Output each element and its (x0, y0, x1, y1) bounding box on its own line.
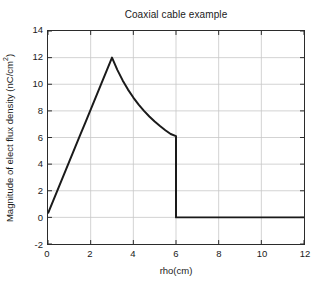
y-tick-label: 0 (20, 213, 43, 223)
y-tick-label: 2 (20, 186, 43, 196)
chart-figure: Coaxial cable example -202468101214 0246… (0, 0, 317, 289)
x-tick-label: 6 (173, 249, 178, 259)
y-tick-label: 10 (20, 79, 43, 89)
x-tick-label: 4 (130, 249, 135, 259)
x-tick-label: 0 (44, 249, 49, 259)
x-axis-title: rho(cm) (47, 265, 305, 276)
y-tick-label: 4 (20, 159, 43, 169)
y-tick-label: 12 (20, 52, 43, 62)
plot-canvas (48, 31, 304, 244)
y-tick-label: 6 (20, 133, 43, 143)
y-axis-title: Magnitude of elect flux density (nC/cm2) (4, 53, 15, 221)
x-tick-label: 8 (216, 249, 221, 259)
y-axis-title-superscript: 2 (2, 57, 9, 61)
y-tick-label: 8 (20, 106, 43, 116)
y-axis-title-tail: ) (4, 53, 15, 56)
y-tick-label: 14 (20, 25, 43, 35)
y-axis-tick-labels: -202468101214 (20, 30, 43, 245)
x-axis-tick-labels: 024681012 (47, 249, 305, 263)
y-axis-title-wrapper: Magnitude of elect flux density (nC/cm2) (0, 30, 18, 245)
x-tick-label: 10 (257, 249, 268, 259)
page-title: Coaxial cable example (47, 9, 305, 20)
plot-area (47, 30, 305, 245)
x-tick-label: 12 (300, 249, 311, 259)
x-tick-label: 2 (87, 249, 92, 259)
y-axis-title-main: Magnitude of elect flux density (nC/cm (4, 61, 15, 222)
y-tick-label: -2 (20, 240, 43, 250)
